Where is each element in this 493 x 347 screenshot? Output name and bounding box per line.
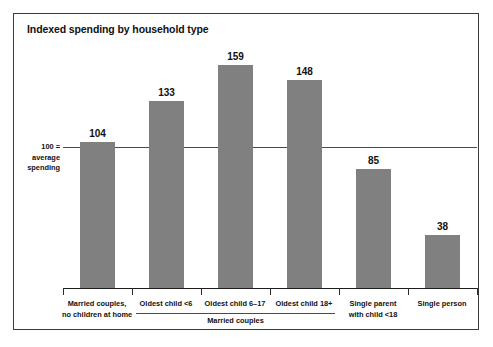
axis-tick xyxy=(63,288,64,295)
bar-value-label: 148 xyxy=(270,66,339,77)
reference-line-annotation: 100 = average spending xyxy=(16,142,60,173)
category-label-line1: Single person xyxy=(399,299,485,310)
axis-tick xyxy=(477,288,478,295)
bar-value-label: 104 xyxy=(63,128,132,139)
bar-value-label: 38 xyxy=(408,221,477,232)
axis-tick xyxy=(201,288,202,295)
category-label-line2: no children at home xyxy=(54,310,140,321)
bar-rect xyxy=(218,65,253,289)
axis-tick xyxy=(132,288,133,295)
bar-rect xyxy=(356,169,391,288)
group-bracket-line xyxy=(136,313,335,314)
group-bracket-label: Married couples xyxy=(136,316,335,325)
bar-slot: 85 xyxy=(339,42,408,288)
bar-rect xyxy=(425,235,460,288)
bar-slot: 104 xyxy=(63,42,132,288)
bar-value-label: 133 xyxy=(132,87,201,98)
chart-title: Indexed spending by household type xyxy=(27,23,209,35)
bar-slot: 38 xyxy=(408,42,477,288)
category-label-line2: with child <18 xyxy=(330,310,416,321)
bar-rect xyxy=(287,80,322,288)
bar-rect xyxy=(80,142,115,288)
reference-annotation-line2: average xyxy=(16,153,60,163)
bar-value-label: 85 xyxy=(339,155,408,166)
plot-area: 104 133 159 148 85 38 xyxy=(63,42,477,288)
bar-rect xyxy=(149,101,184,288)
axis-tick xyxy=(270,288,271,295)
reference-annotation-line3: spending xyxy=(16,163,60,173)
bar-value-label: 159 xyxy=(201,51,270,62)
bar-slot: 159 xyxy=(201,42,270,288)
axis-tick xyxy=(339,288,340,295)
axis-tick xyxy=(408,288,409,295)
bar-slot: 148 xyxy=(270,42,339,288)
category-label-single-person: Single person xyxy=(399,299,485,310)
reference-annotation-line1: 100 = xyxy=(16,142,60,152)
bar-slot: 133 xyxy=(132,42,201,288)
chart-figure: Indexed spending by household type 104 1… xyxy=(13,13,479,330)
